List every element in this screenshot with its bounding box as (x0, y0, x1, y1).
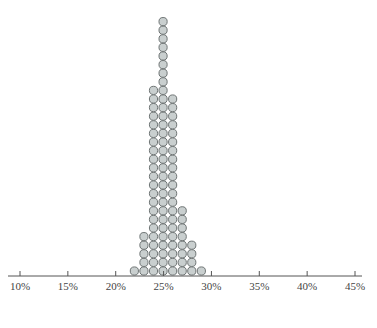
data-dot (159, 207, 167, 215)
data-dot (140, 258, 148, 266)
data-dot (149, 95, 157, 103)
data-dot (178, 267, 186, 275)
data-dot (178, 207, 186, 215)
data-dot (178, 258, 186, 266)
data-dot (169, 172, 177, 180)
tick-label-15: 15% (58, 280, 78, 292)
data-dot (169, 198, 177, 206)
data-dot (169, 224, 177, 232)
data-dot (159, 172, 167, 180)
data-dot (159, 258, 167, 266)
data-dot (159, 121, 167, 129)
data-dot (159, 52, 167, 60)
tick-label-30: 30% (201, 280, 221, 292)
data-dot (159, 61, 167, 69)
data-dot (149, 155, 157, 163)
data-dot (169, 164, 177, 172)
data-dot (159, 190, 167, 198)
data-dot (159, 112, 167, 120)
data-dot (149, 241, 157, 249)
data-dot (169, 129, 177, 137)
data-dot (149, 172, 157, 180)
tick-label-20: 20% (106, 280, 126, 292)
data-dot (159, 69, 167, 77)
data-dot (149, 198, 157, 206)
data-dot (169, 112, 177, 120)
data-dot (169, 207, 177, 215)
data-dot (149, 224, 157, 232)
data-dot (197, 267, 205, 275)
data-dot (169, 147, 177, 155)
data-dot (159, 198, 167, 206)
data-dot (159, 26, 167, 34)
data-dot (159, 95, 167, 103)
data-dot (159, 86, 167, 94)
data-dot (178, 215, 186, 223)
data-dot (149, 129, 157, 137)
data-dot (159, 241, 167, 249)
dot-stacks (130, 18, 205, 276)
data-dot (159, 181, 167, 189)
data-dot (140, 267, 148, 275)
data-dot (149, 112, 157, 120)
data-dot (178, 250, 186, 258)
data-dot (159, 233, 167, 241)
tick-label-25: 25% (153, 280, 173, 292)
data-dot (149, 121, 157, 129)
data-dot (169, 181, 177, 189)
data-dot (169, 241, 177, 249)
data-dot (149, 86, 157, 94)
data-dot (159, 224, 167, 232)
data-dot (149, 138, 157, 146)
data-dot (140, 250, 148, 258)
data-dot (178, 233, 186, 241)
data-dot (159, 129, 167, 137)
data-dot (159, 164, 167, 172)
data-dot (169, 95, 177, 103)
data-dot (159, 43, 167, 51)
data-dot (159, 78, 167, 86)
data-dot (169, 190, 177, 198)
data-dot (149, 250, 157, 258)
data-dot (159, 138, 167, 146)
data-dot (159, 215, 167, 223)
data-dot (149, 233, 157, 241)
data-dot (169, 215, 177, 223)
data-dot (169, 250, 177, 258)
dot-plot: 10% 15% 20% 25% 30% 35% 40% 45% (0, 0, 377, 328)
data-dot (178, 241, 186, 249)
data-dot (149, 164, 157, 172)
data-dot (169, 138, 177, 146)
data-dot (130, 267, 138, 275)
data-dot (159, 147, 167, 155)
data-dot (149, 207, 157, 215)
data-dot (188, 258, 196, 266)
data-dot (159, 18, 167, 26)
data-dot (169, 121, 177, 129)
data-dot (188, 250, 196, 258)
x-axis-tick-labels: 10% 15% 20% 25% 30% 35% 40% 45% (10, 280, 365, 292)
data-dot (178, 224, 186, 232)
data-dot (159, 104, 167, 112)
tick-label-35: 35% (249, 280, 269, 292)
data-dot (169, 267, 177, 275)
data-dot (149, 215, 157, 223)
data-dot (169, 233, 177, 241)
data-dot (149, 258, 157, 266)
data-dot (159, 35, 167, 43)
data-dot (149, 190, 157, 198)
data-dot (169, 104, 177, 112)
data-dot (159, 250, 167, 258)
tick-label-40: 40% (297, 280, 317, 292)
data-dot (140, 241, 148, 249)
data-dot (149, 147, 157, 155)
data-dot (149, 104, 157, 112)
data-dot (188, 267, 196, 275)
data-dot (140, 233, 148, 241)
data-dot (188, 241, 196, 249)
tick-label-45: 45% (345, 280, 365, 292)
data-dot (169, 155, 177, 163)
data-dot (159, 155, 167, 163)
data-dot (149, 181, 157, 189)
tick-label-10: 10% (10, 280, 30, 292)
